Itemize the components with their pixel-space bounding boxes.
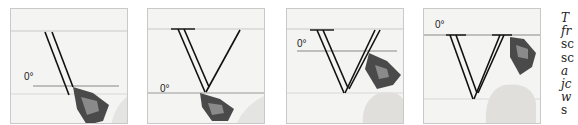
- body-text-fragment: T fr sc sc a jc w s: [561, 12, 578, 118]
- text-line: sc: [561, 38, 578, 51]
- pen-stroke-illustration: [287, 9, 404, 124]
- text-line: sc: [561, 52, 578, 65]
- angle-label: 0°: [24, 71, 34, 82]
- pen-stroke-illustration: [11, 9, 128, 124]
- angle-label: 0°: [435, 19, 445, 30]
- pen-stroke-illustration: [148, 9, 265, 124]
- angle-label: 0°: [297, 38, 307, 49]
- angle-label: 0°: [160, 83, 170, 94]
- text-line: s: [561, 104, 578, 117]
- figure-panel-4: 0°: [423, 8, 541, 124]
- figure-panel-3: 0°: [286, 8, 404, 124]
- figure-panel-1: 0°: [10, 8, 128, 124]
- figure-panel-2: 0°: [147, 8, 265, 124]
